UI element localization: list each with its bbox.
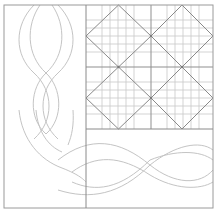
- quilting-diagram: [0, 0, 217, 210]
- cable-border-horizontal: [58, 144, 213, 195]
- frame: [4, 5, 213, 208]
- block-dividers: [86, 5, 213, 129]
- cable-border-vertical: [19, 5, 86, 182]
